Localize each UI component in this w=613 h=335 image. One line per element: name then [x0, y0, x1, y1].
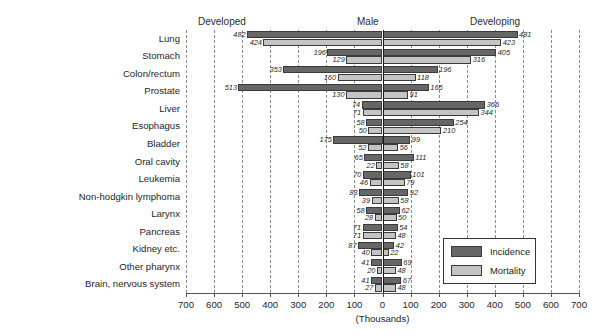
- value-label-developed: 28: [365, 214, 373, 221]
- x-tick-label: 500: [515, 299, 531, 310]
- bar-developed: [363, 224, 383, 231]
- bar-developing: [383, 179, 405, 186]
- x-tick: [270, 293, 271, 297]
- value-label-developing: 254: [455, 119, 467, 126]
- x-tick: [467, 293, 468, 297]
- x-tick-label: 300: [459, 299, 475, 310]
- bar-developed: [375, 284, 383, 291]
- bar-developed: [368, 144, 383, 151]
- category-label: Other pharynx: [0, 261, 180, 272]
- bar-developing: [383, 127, 442, 134]
- x-tick-label: 600: [543, 299, 559, 310]
- value-label-developed: 58: [356, 207, 364, 214]
- value-label-developing: 316: [473, 56, 485, 63]
- legend-label-mortality: Mortality: [490, 265, 525, 276]
- x-tick-label: 200: [431, 299, 447, 310]
- x-tick-label: 700: [178, 299, 194, 310]
- bar-developing: [383, 197, 399, 204]
- value-label-developing: 79: [406, 179, 414, 186]
- value-label-developed: 71: [353, 109, 361, 116]
- value-label-developing: 196: [439, 66, 451, 73]
- value-label-developed: 46: [360, 179, 368, 186]
- value-label-developed: 353: [270, 66, 282, 73]
- x-tick-label: 600: [206, 299, 222, 310]
- legend-item-incidence: Incidence: [451, 245, 530, 258]
- value-label-developing: 48: [397, 232, 405, 239]
- category-label: Larynx: [0, 208, 180, 219]
- x-tick-label: 300: [290, 299, 306, 310]
- legend-swatch-mortality: [451, 265, 482, 276]
- x-tick: [354, 293, 355, 297]
- value-label-developed: 196: [314, 49, 326, 56]
- x-axis-title: (Thousands): [356, 313, 410, 324]
- bar-developed: [362, 101, 383, 108]
- bar-developing: [383, 84, 429, 91]
- category-label: Brain, nervous system: [0, 278, 180, 289]
- value-label-developed: 424: [250, 39, 262, 46]
- value-label-developing: 56: [400, 144, 408, 151]
- header-developing: Developing: [470, 16, 520, 27]
- x-tick-label: 0: [380, 299, 385, 310]
- bar-developed: [370, 179, 383, 186]
- bar-developing: [383, 91, 409, 98]
- x-tick: [439, 293, 440, 297]
- value-label-developing: 58: [400, 162, 408, 169]
- bar-developing: [383, 74, 416, 81]
- value-label-developing: 50: [398, 214, 406, 221]
- value-label-developing: 165: [430, 84, 442, 91]
- category-label: Leukemia: [0, 173, 180, 184]
- bar-developing: [383, 66, 438, 73]
- value-label-developed: 27: [365, 284, 373, 291]
- value-label-developing: 405: [498, 49, 510, 56]
- value-label-developing: 58: [400, 197, 408, 204]
- x-tick: [242, 293, 243, 297]
- bar-developing: [383, 56, 472, 63]
- x-tick: [214, 293, 215, 297]
- value-label-developing: 481: [519, 31, 531, 38]
- value-label-developed: 39: [362, 197, 370, 204]
- value-label-developing: 210: [443, 127, 455, 134]
- x-tick: [495, 293, 496, 297]
- x-tick: [326, 293, 327, 297]
- bar-developing: [383, 144, 399, 151]
- bar-developed: [263, 39, 382, 46]
- value-label-developed: 160: [324, 74, 336, 81]
- header-developed: Developed: [198, 16, 246, 27]
- x-tick-label: 100: [346, 299, 362, 310]
- bar-developed: [371, 249, 382, 256]
- value-label-developing: 111: [415, 154, 426, 161]
- bar-developing: [383, 267, 396, 274]
- bar-developing: [383, 119, 454, 126]
- category-label: Lung: [0, 33, 180, 44]
- x-tick-label: 700: [571, 299, 587, 310]
- category-label: Oral cavity: [0, 156, 180, 167]
- x-tick-label: 500: [234, 299, 250, 310]
- bar-developed: [375, 214, 383, 221]
- value-label-developing: 48: [397, 284, 405, 291]
- x-tick: [579, 293, 580, 297]
- category-label: Non-hodgkin lymphoma: [0, 191, 180, 202]
- bar-developed: [247, 31, 382, 38]
- value-label-developing: 22: [390, 249, 398, 256]
- value-label-developed: 52: [358, 144, 366, 151]
- bar-developing: [383, 214, 397, 221]
- category-label: Pancreas: [0, 226, 180, 237]
- value-label-developed: 129: [332, 56, 344, 63]
- value-label-developing: 92: [410, 189, 418, 196]
- value-label-developing: 48: [397, 267, 405, 274]
- bar-developed: [338, 74, 383, 81]
- value-label-developed: 50: [359, 127, 367, 134]
- value-label-developed: 513: [225, 84, 237, 91]
- bar-developed: [238, 84, 382, 91]
- x-tick-label: 400: [262, 299, 278, 310]
- value-label-developed: 175: [320, 136, 332, 143]
- bar-developed: [363, 232, 383, 239]
- category-label: Kidney etc.: [0, 243, 180, 254]
- header-male: Male: [357, 16, 379, 27]
- value-label-developed: 87: [348, 242, 356, 249]
- bar-developing: [383, 162, 399, 169]
- value-label-developed: 40: [362, 249, 370, 256]
- value-label-developed: 83: [349, 189, 357, 196]
- value-label-developed: 130: [332, 91, 344, 98]
- cancer-incidence-mortality-chart: Developed Male Developing LungStomachCol…: [0, 0, 613, 335]
